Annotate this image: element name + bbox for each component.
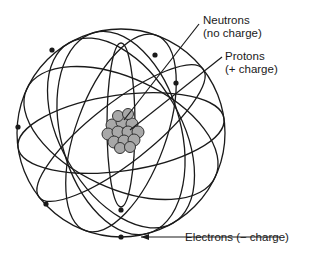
- electrons-label-text: Electrons (− charge): [185, 231, 289, 244]
- electrons-label-name: Electrons (− charge): [185, 231, 289, 244]
- neutrons-label-name: Neutrons: [203, 14, 262, 27]
- nucleus: [102, 109, 144, 154]
- protons-label: Protons (+ charge): [225, 50, 278, 76]
- protons-label-name: Protons: [225, 50, 278, 63]
- protons-label-charge: (+ charge): [225, 63, 278, 76]
- neutrons-label-charge: (no charge): [203, 27, 262, 40]
- atom-diagram: [0, 0, 315, 255]
- neutrons-label: Neutrons (no charge): [203, 14, 262, 40]
